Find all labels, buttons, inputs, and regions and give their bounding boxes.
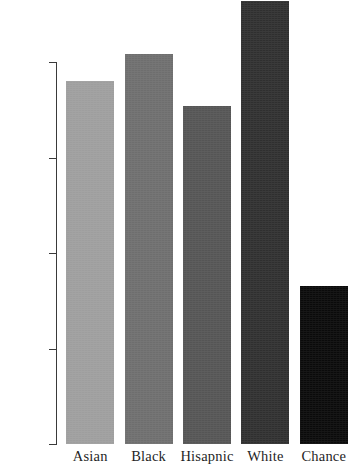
bar-black <box>125 54 173 444</box>
x-axis-label-white: White <box>247 448 283 465</box>
x-axis-labels: AsianBlackHisapnicWhiteChance <box>60 444 352 473</box>
y-axis-tick <box>49 349 57 350</box>
x-axis-label-hisapnic: Hisapnic <box>180 448 233 465</box>
y-axis-tick <box>49 444 57 445</box>
x-axis-label-black: Black <box>131 448 166 465</box>
y-axis-tick <box>49 253 57 254</box>
bar-asian <box>66 81 114 444</box>
x-axis-label-asian: Asian <box>73 448 108 465</box>
bar-chart-figure: 0.000.050.100.150.20 AsianBlackHisapnicW… <box>0 0 352 473</box>
y-axis-tick <box>49 158 57 159</box>
bar-hisapnic <box>183 106 231 444</box>
x-axis-label-chance: Chance <box>301 448 346 465</box>
bar-chance <box>300 286 348 445</box>
plot-area <box>60 0 352 473</box>
y-axis: 0.000.050.100.150.20 <box>0 0 60 473</box>
y-axis-tick <box>49 62 57 63</box>
bar-white <box>241 1 289 444</box>
